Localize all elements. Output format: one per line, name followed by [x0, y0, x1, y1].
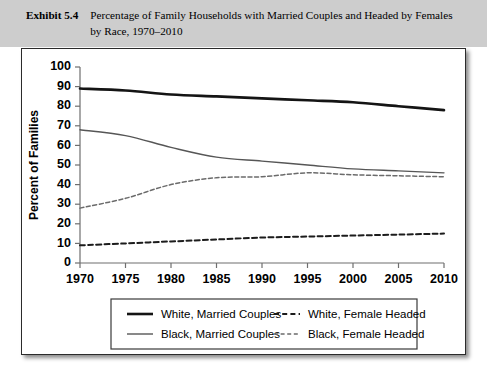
- exhibit-title: Percentage of Family Households with Mar…: [90, 7, 462, 39]
- x-tick-label: 1995: [294, 272, 322, 286]
- legend-label: White, Female Headed: [308, 308, 426, 320]
- chart-legend: White, Married CouplesWhite, Female Head…: [111, 299, 426, 349]
- y-tick-label: 70: [57, 118, 71, 132]
- x-tick-label: 2000: [339, 272, 367, 286]
- x-tick-label: 2005: [385, 272, 413, 286]
- y-tick-label: 30: [57, 196, 71, 210]
- y-tick-label: 0: [64, 255, 71, 269]
- exhibit-header-band: Exhibit 5.4 Percentage of Family Househo…: [0, 0, 487, 47]
- legend-label: White, Married Couples: [161, 308, 281, 320]
- figure-frame: 0102030405060708090100 19701975198019851…: [21, 48, 466, 355]
- chart-area: 0102030405060708090100 19701975198019851…: [22, 49, 464, 353]
- series-line-white-female-headed: [80, 234, 444, 246]
- legend-label: Black, Married Couples: [161, 328, 280, 340]
- y-tick-label: 20: [57, 216, 71, 230]
- x-tick-label: 1985: [203, 272, 231, 286]
- y-tick-label: 50: [57, 157, 71, 171]
- x-tick-label: 2010: [430, 272, 458, 286]
- exhibit-figure-page: Exhibit 5.4 Percentage of Family Househo…: [0, 0, 487, 370]
- data-series-group: [80, 89, 444, 246]
- x-tick-label: 1970: [66, 272, 94, 286]
- series-line-white-married-couples: [80, 89, 444, 111]
- y-axis-label: Percent of Families: [27, 110, 41, 220]
- series-line-black-female-headed: [80, 173, 444, 208]
- x-tick-label: 1990: [248, 272, 276, 286]
- x-tick-label: 1975: [112, 272, 140, 286]
- x-tick-label: 1980: [157, 272, 185, 286]
- legend-label: Black, Female Headed: [308, 328, 424, 340]
- line-chart: 0102030405060708090100 19701975198019851…: [22, 49, 464, 353]
- x-axis-ticks: 197019751980198519901995200020052010: [66, 263, 458, 286]
- y-tick-label: 40: [57, 177, 71, 191]
- series-line-black-married-couples: [80, 130, 444, 173]
- y-tick-label: 10: [57, 236, 71, 250]
- exhibit-number-label: Exhibit 5.4: [26, 7, 78, 23]
- y-axis-ticks: 0102030405060708090100: [50, 59, 80, 269]
- y-tick-label: 90: [57, 79, 71, 93]
- legend-border: [111, 299, 417, 349]
- y-tick-label: 60: [57, 138, 71, 152]
- y-tick-label: 100: [50, 59, 71, 73]
- y-tick-label: 80: [57, 98, 71, 112]
